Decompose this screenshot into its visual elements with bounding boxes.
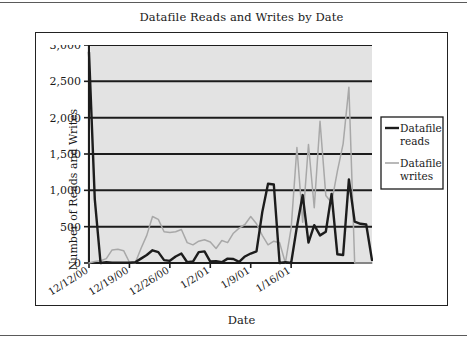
x-axis-tick-label: 1/2/01: [178, 264, 211, 290]
y-axis-tick-label: 1,500: [50, 148, 82, 161]
x-axis-tick-label: 1/16/01: [254, 264, 293, 294]
legend-label-line2: reads: [400, 135, 430, 147]
legend-label-line1: Datafile: [400, 122, 442, 134]
legend-label-line2: writes: [400, 170, 433, 182]
page-rule-bottom: [0, 335, 467, 336]
figure-frame: Number of Reads and Writes 05001,0001,50…: [35, 32, 448, 306]
y-axis-tick-label: 2,000: [50, 112, 82, 125]
x-axis-tick-label: 12/19/00: [87, 264, 131, 297]
legend-label-line1: Datafile: [400, 157, 442, 169]
chart-plot: 05001,0001,5002,0002,5003,00012/12/0012/…: [36, 33, 447, 305]
x-axis-tick-label: 1/9/01: [219, 264, 252, 290]
x-axis-title: Date: [35, 313, 448, 327]
chart-title: Datafile Reads and Writes by Date: [35, 10, 448, 24]
y-axis-tick-label: 2,500: [50, 75, 82, 88]
y-axis-tick-label: 1,000: [50, 184, 82, 197]
y-axis-tick-label: 500: [60, 221, 81, 234]
x-axis-tick-label: 12/12/00: [46, 264, 90, 297]
page-rule-top: [0, 2, 467, 3]
x-axis-tick-label: 12/26/00: [127, 264, 171, 297]
